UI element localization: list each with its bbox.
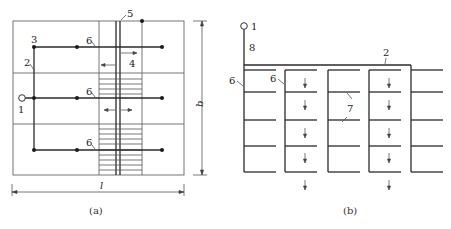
label-junction: 3 [31,34,37,45]
caption-a: (a) [89,205,103,216]
caption-b: (b) [343,205,357,216]
label-riser: 8 [249,42,255,53]
column-4 [369,70,401,172]
node [32,96,36,100]
label-branch-middle: 6 [86,86,92,97]
label-source: 1 [18,104,24,115]
leaders-b [237,58,386,122]
node [75,96,79,100]
flow-arrows-col2 [304,78,307,190]
node [75,148,79,152]
diagram-canvas: 1 2 3 4 5 6 6 6 b l (a) [0,0,451,229]
dimension-height [193,21,207,175]
figure-b: 1 8 2 6 6 7 (b) [229,21,443,216]
label-stair-wall: 5 [127,8,133,19]
label-branch-left: 6 [229,75,235,86]
dimension-width-label: l [100,180,103,191]
node [75,45,79,49]
column-2 [285,70,317,172]
column-1 [244,70,276,172]
label-main-pipe: 2 [24,57,30,68]
node [160,148,164,152]
node [140,19,144,23]
node [32,45,36,49]
label-branch-top: 6 [86,35,92,46]
label-main-pipe-b: 2 [383,47,389,58]
label-evacuation-arrow: 4 [129,58,135,69]
node [160,96,164,100]
source-icon [19,95,26,102]
label-branch-bottom: 6 [86,137,92,148]
label-branch-second: 6 [270,73,276,84]
source-icon-b [241,23,248,30]
figure-a: 1 2 3 4 5 6 6 6 b l (a) [12,8,207,216]
column-5 [411,70,443,172]
dimension-width [12,184,184,196]
dimension-height-label: b [194,101,205,107]
label-source-b: 1 [251,21,257,32]
column-3 [328,70,360,172]
node [160,45,164,49]
label-lateral: 7 [347,103,353,114]
flow-arrows-col4 [388,78,391,190]
node [32,148,36,152]
